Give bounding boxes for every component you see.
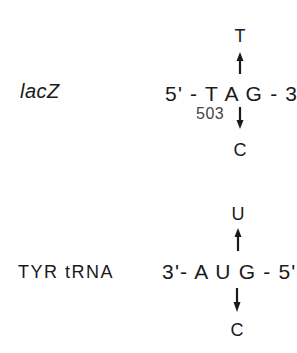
- arrow-up-icon: [233, 228, 243, 251]
- gene-label-tyr-trna: TYR tRNA: [18, 263, 114, 281]
- gene-label-lacz: lacZ: [20, 81, 60, 101]
- anticodon-sequence: 3'- A U G - 5': [162, 261, 297, 282]
- mutation-down-base: C: [227, 321, 247, 339]
- arrow-down-icon: [235, 107, 245, 129]
- position-number: 503: [196, 106, 224, 122]
- arrow-down-icon: [232, 288, 242, 312]
- codon-sequence: 5' - T A G - 3': [165, 83, 297, 104]
- mutation-up-base: T: [230, 27, 250, 45]
- mutation-down-base: C: [230, 141, 250, 159]
- arrow-up-icon: [235, 52, 245, 74]
- mutation-up-base: U: [228, 205, 248, 223]
